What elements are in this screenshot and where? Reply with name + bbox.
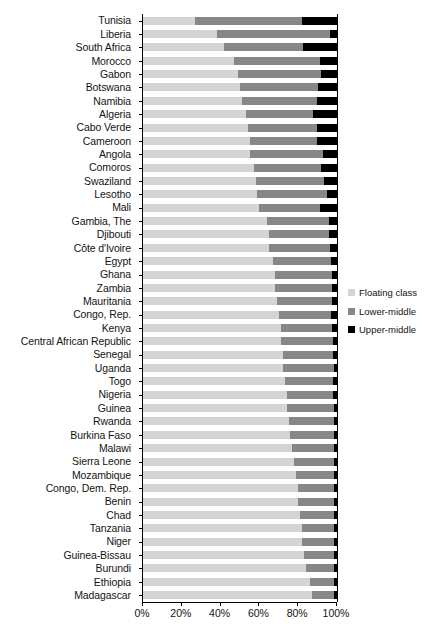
bar-segment-upper-middle [334,458,337,466]
category-label: Kenya [0,321,136,334]
bar-segment-floating-class [143,404,287,412]
stacked-bar [143,43,337,51]
table-row [143,108,337,121]
table-row [143,254,337,267]
bar-segment-lower-middle [256,177,325,185]
bar-segment-floating-class [143,578,310,586]
bar-segment-lower-middle [283,351,333,359]
bar-segment-upper-middle [321,70,337,78]
x-axis-tick [220,602,221,606]
bar-segment-upper-middle [332,324,337,332]
bar-segment-floating-class [143,217,267,225]
category-label: Nigeria [0,388,136,401]
bar-segment-lower-middle [234,57,319,65]
bar-segment-floating-class [143,511,300,519]
bar-segment-lower-middle [248,124,317,132]
chart-legend: Floating classLower-middleUpper-middle [348,288,440,335]
bar-segment-upper-middle [334,498,337,506]
stacked-bar [143,324,337,332]
bar-segment-lower-middle [306,564,334,572]
bar-segment-floating-class [143,43,224,51]
bar-segment-lower-middle [267,217,329,225]
category-label: Sierra Leone [0,455,136,468]
table-row [143,535,337,548]
bar-segment-upper-middle [318,83,337,91]
stacked-bar [143,70,337,78]
category-label: Angola [0,148,136,161]
bar-segment-floating-class [143,30,217,38]
bar-segment-floating-class [143,524,302,532]
bar-segment-lower-middle [238,70,321,78]
bar-segment-lower-middle [250,150,324,158]
bar-segment-floating-class [143,591,312,599]
bar-segment-upper-middle [331,257,337,265]
stacked-bar [143,524,337,532]
table-row [143,308,337,321]
stacked-bar [143,271,337,279]
table-row [143,575,337,588]
bar-segment-upper-middle [333,337,337,345]
bar-segment-floating-class [143,498,298,506]
legend-item: Lower-middle [348,307,440,317]
x-axis-tick-label: 0% [134,608,149,619]
stacked-bar [143,351,337,359]
stacked-bar-chart: TunisiaLiberiaSouth AfricaMoroccoGabonBo… [0,0,441,635]
bar-segment-floating-class [143,83,240,91]
bar-segment-lower-middle [279,311,331,319]
bar-segment-upper-middle [334,511,337,519]
stacked-bar [143,177,337,185]
bar-segment-lower-middle [304,551,334,559]
bar-segment-floating-class [143,257,273,265]
bar-segment-lower-middle [281,324,332,332]
bar-segment-upper-middle [333,377,337,385]
table-row [143,161,337,174]
bar-segment-upper-middle [332,271,337,279]
category-label: Côte d'Ivoire [0,241,136,254]
bar-segment-upper-middle [333,391,337,399]
table-row [143,548,337,561]
table-row [143,148,337,161]
bar-segment-lower-middle [275,284,332,292]
bar-segment-upper-middle [334,444,337,452]
bar-segment-lower-middle [246,110,313,118]
x-axis-tick [142,602,143,606]
bar-segment-floating-class [143,124,248,132]
category-label: Niger [0,535,136,548]
bar-segment-upper-middle [317,97,337,105]
x-axis-tick-label: 40% [209,608,230,619]
bar-segment-floating-class [143,150,250,158]
bar-segment-upper-middle [327,190,337,198]
category-label: Morocco [0,54,136,67]
bar-segment-floating-class [143,444,292,452]
bar-segment-upper-middle [334,484,337,492]
bar-segment-lower-middle [277,297,332,305]
table-row [143,468,337,481]
stacked-bar [143,391,337,399]
stacked-bar [143,124,337,132]
legend-label: Upper-middle [359,325,416,335]
bar-segment-floating-class [143,271,275,279]
bar-segment-lower-middle [289,417,335,425]
bar-segment-lower-middle [285,377,334,385]
stacked-bar [143,591,337,599]
stacked-bar [143,551,337,559]
bar-segment-floating-class [143,431,290,439]
bar-segment-floating-class [143,177,256,185]
stacked-bar [143,564,337,572]
category-label: Congo, Dem. Rep. [0,482,136,495]
bar-segment-upper-middle [329,217,337,225]
bar-segment-floating-class [143,311,279,319]
category-label: Comoros [0,161,136,174]
category-label: Uganda [0,361,136,374]
category-label: Senegal [0,348,136,361]
table-row [143,121,337,134]
category-label: Mali [0,201,136,214]
bar-segment-floating-class [143,337,281,345]
table-row [143,174,337,187]
bar-segment-floating-class [143,190,257,198]
bar-segment-upper-middle [321,164,337,172]
stacked-bar [143,83,337,91]
legend-label: Floating class [359,288,417,298]
stacked-bar [143,337,337,345]
stacked-bar [143,297,337,305]
